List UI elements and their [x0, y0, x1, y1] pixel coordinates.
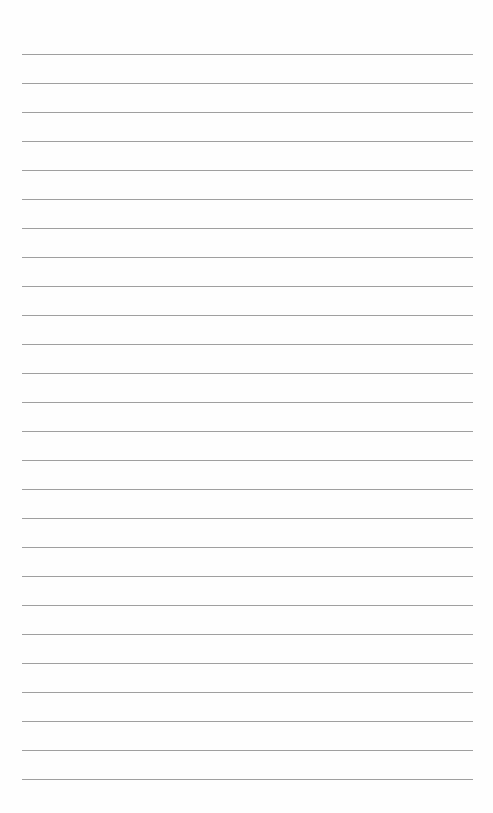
ruled-line	[22, 547, 473, 548]
ruled-line	[22, 344, 473, 345]
ruled-line	[22, 460, 473, 461]
ruled-line	[22, 489, 473, 490]
ruled-line	[22, 54, 473, 55]
ruled-line	[22, 141, 473, 142]
ruled-line	[22, 634, 473, 635]
ruled-line	[22, 692, 473, 693]
ruled-line	[22, 663, 473, 664]
ruled-line	[22, 112, 473, 113]
ruled-line	[22, 83, 473, 84]
ruled-line	[22, 750, 473, 751]
ruled-line	[22, 257, 473, 258]
ruled-line	[22, 315, 473, 316]
ruled-line	[22, 402, 473, 403]
ruled-line	[22, 286, 473, 287]
ruled-line	[22, 518, 473, 519]
ruled-line	[22, 431, 473, 432]
ruled-line	[22, 576, 473, 577]
ruled-line	[22, 170, 473, 171]
ruled-line	[22, 199, 473, 200]
ruled-line	[22, 779, 473, 780]
ruled-line	[22, 721, 473, 722]
ruled-line	[22, 373, 473, 374]
ruled-line	[22, 228, 473, 229]
ruled-line	[22, 605, 473, 606]
lined-paper-page	[0, 0, 493, 813]
